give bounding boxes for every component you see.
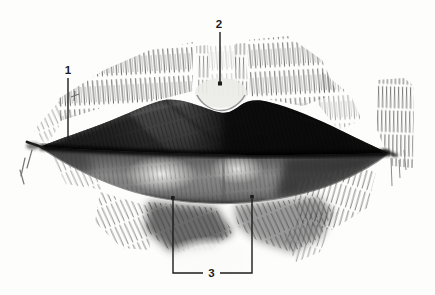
lips-drawing-svg: 1 2 3	[0, 0, 435, 295]
callout-3-label: 3	[208, 267, 214, 279]
callout-2-label: 2	[216, 18, 222, 30]
figure-lips-sketch: 1 2 3	[0, 0, 435, 295]
callout-1-label: 1	[65, 64, 72, 76]
left-corner-smudge	[26, 143, 40, 150]
callout-3-dot-right	[250, 195, 254, 199]
callout-2-dot	[218, 82, 222, 86]
callout-3-dot-left	[171, 196, 175, 200]
